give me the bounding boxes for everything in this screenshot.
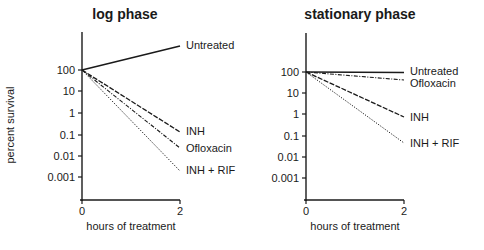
series-untreated	[306, 72, 404, 73]
y-tick-label: 0.01	[54, 150, 75, 162]
chart-title: log phase	[92, 6, 158, 22]
series-labels: Untreated Ofloxacin INH INH + RIF	[410, 65, 459, 149]
label-untreated: Untreated	[410, 65, 458, 77]
label-inh: INH	[410, 111, 429, 123]
chart-title: stationary phase	[304, 6, 415, 22]
label-ofloxacin: Ofloxacin	[410, 77, 456, 89]
series-untreated	[82, 46, 180, 70]
y-tick-label: 0.01	[278, 151, 299, 163]
series-inh	[82, 70, 180, 132]
y-tick-label: 0.001	[47, 171, 75, 183]
label-inh: INH	[186, 125, 205, 137]
label-inh-rif: INH + RIF	[410, 137, 459, 149]
series-inh-rif	[82, 70, 180, 171]
x-tick-label: 2	[177, 205, 183, 217]
chart-log-phase: log phase percent survival 100 10 1 0.1 …	[4, 6, 235, 232]
y-tick-label: 1	[69, 107, 75, 119]
y-tick-label: 100	[57, 64, 75, 76]
x-tick-label: 0	[79, 205, 85, 217]
x-axis-label: hours of treatment	[310, 220, 399, 232]
series-inh-rif	[306, 72, 404, 143]
figure: log phase percent survival 100 10 1 0.1 …	[0, 0, 484, 250]
label-ofloxacin: Ofloxacin	[186, 142, 232, 154]
series-ofloxacin	[82, 70, 180, 148]
y-tick-label: 10	[287, 87, 299, 99]
y-tick-label: 0.1	[60, 129, 75, 141]
y-tick-labels: 100 10 1 0.1 0.01 0.001	[47, 64, 75, 183]
y-tick-label: 1	[293, 108, 299, 120]
y-tick-label: 0.001	[271, 172, 299, 184]
x-tick-label: 2	[401, 205, 407, 217]
label-inh-rif: INH + RIF	[186, 164, 235, 176]
series-labels: Untreated INH Ofloxacin INH + RIF	[186, 39, 235, 176]
y-tick-labels: 100 10 1 0.1 0.01 0.001	[271, 66, 299, 184]
label-untreated: Untreated	[186, 39, 234, 51]
y-tick-label: 10	[63, 85, 75, 97]
chart-stationary-phase: stationary phase 100 10 1 0.1 0.01 0.001…	[271, 6, 459, 232]
y-axis-label: percent survival	[4, 86, 16, 163]
y-tick-label: 100	[281, 66, 299, 78]
x-tick-label: 0	[303, 205, 309, 217]
y-tick-label: 0.1	[284, 130, 299, 142]
x-axis-label: hours of treatment	[86, 220, 175, 232]
